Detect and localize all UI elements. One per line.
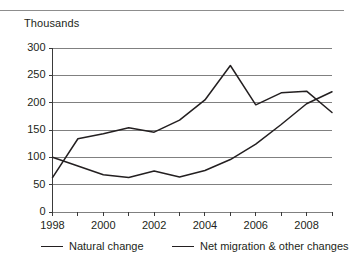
y-tick-label: 200 bbox=[20, 97, 46, 108]
chart-legend: Natural change Net migration & other cha… bbox=[0, 240, 344, 256]
x-tick-marks-group bbox=[53, 212, 333, 216]
y-tick-label: 250 bbox=[20, 69, 46, 80]
legend-item-natural-change: Natural change bbox=[41, 240, 144, 253]
legend-label: Net migration & other changes bbox=[200, 240, 349, 253]
legend-label: Natural change bbox=[69, 240, 144, 253]
x-tick-label: 2008 bbox=[287, 220, 327, 231]
series-lines-group bbox=[53, 65, 333, 177]
y-tick-label: 100 bbox=[20, 151, 46, 162]
x-tick-label: 2002 bbox=[134, 220, 174, 231]
x-tick-label: 2004 bbox=[185, 220, 225, 231]
y-tick-label: 150 bbox=[20, 124, 46, 135]
y-tick-label: 50 bbox=[20, 179, 46, 190]
legend-line-swatch-icon bbox=[41, 246, 63, 247]
x-tick-label: 1998 bbox=[33, 220, 73, 231]
series-line-net-migration bbox=[53, 65, 333, 177]
series-line-natural-change bbox=[53, 92, 333, 178]
y-tick-label: 0 bbox=[20, 206, 46, 217]
y-tick-label: 300 bbox=[20, 42, 46, 53]
x-tick-label: 2006 bbox=[236, 220, 276, 231]
legend-item-net-migration: Net migration & other changes bbox=[172, 240, 349, 253]
legend-line-swatch-icon bbox=[172, 246, 194, 247]
x-tick-label: 2000 bbox=[83, 220, 123, 231]
